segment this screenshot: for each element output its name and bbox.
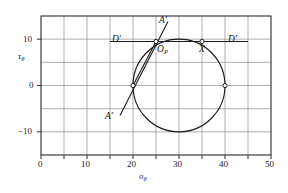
x-tick-label-10: 10 <box>81 160 90 169</box>
x-tick-label-40: 40 <box>219 160 228 169</box>
label-point-x: X <box>199 45 205 55</box>
mohr-circle-figure: 0 10 20 30 40 50 10 0 −10 σθ τθ A′ A′ D′… <box>0 0 288 193</box>
label-d-prime-left: D′ <box>112 35 121 45</box>
label-d-prime-right: D′ <box>228 35 237 45</box>
y-axis-ticks <box>37 39 41 132</box>
right-axis-point-marker <box>223 83 227 87</box>
y-axis-title: τθ <box>18 52 24 62</box>
y-tick-label-10: 10 <box>23 35 32 44</box>
label-pole-sub: P <box>164 48 168 55</box>
x-axis-title-sub: θ <box>143 175 146 182</box>
x-tick-label-0: 0 <box>38 160 43 169</box>
label-pole: OP <box>157 45 168 55</box>
x-point-marker <box>200 39 204 43</box>
pole-point-marker <box>154 39 158 43</box>
label-a-prime-lower: A′ <box>105 112 113 122</box>
y-tick-label-0: 0 <box>29 81 34 90</box>
plot-canvas <box>0 0 288 193</box>
y-tick-label-neg10: −10 <box>18 127 32 136</box>
left-axis-point-marker <box>131 83 135 87</box>
label-pole-main: O <box>157 44 164 54</box>
x-axis-title: σθ <box>139 172 147 182</box>
x-tick-label-50: 50 <box>265 160 274 169</box>
label-a-prime-upper: A′ <box>159 16 167 26</box>
x-tick-label-20: 20 <box>127 160 136 169</box>
x-axis-ticks <box>41 155 271 159</box>
x-tick-label-30: 30 <box>173 160 182 169</box>
y-axis-title-sub: θ <box>21 55 24 62</box>
